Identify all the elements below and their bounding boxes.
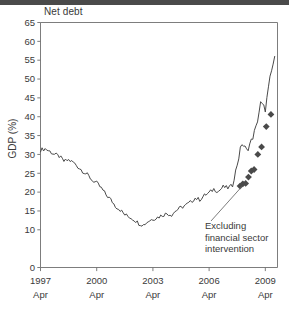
- y-tick-label: 0: [30, 262, 35, 273]
- x-tick-label-month: Apr: [89, 289, 104, 300]
- y-axis-ticks: 0101520253035404550556065: [24, 17, 40, 273]
- y-tick-label: 65: [24, 17, 35, 28]
- y-tick-label: 35: [24, 130, 35, 141]
- y-tick-label: 55: [24, 54, 35, 65]
- y-tick-label: 60: [24, 36, 35, 47]
- data-point-marker: [268, 111, 275, 118]
- x-tick-label-month: Apr: [33, 289, 48, 300]
- x-tick-label-month: Apr: [258, 289, 273, 300]
- data-point-marker: [258, 143, 265, 150]
- x-axis-ticks: 1997Apr2000Apr2003Apr2006Apr2009Apr: [30, 268, 276, 300]
- net-debt-line-series: [41, 56, 275, 226]
- x-tick-label-year: 2009: [255, 275, 276, 286]
- y-tick-label: 50: [24, 73, 35, 84]
- chart-plot-area: 0101520253035404550556065 1997Apr2000Apr…: [0, 0, 289, 309]
- excluding-intervention-marker-series: [237, 111, 275, 189]
- x-tick-label-year: 1997: [30, 275, 51, 286]
- annotation-line: financial sector: [205, 232, 268, 243]
- y-tick-label: 40: [24, 111, 35, 122]
- x-tick-label-year: 2006: [199, 275, 220, 286]
- y-tick-label: 25: [24, 168, 35, 179]
- y-tick-label: 45: [24, 92, 35, 103]
- annotation-layer: Excludingfinancial sectorintervention: [205, 187, 268, 255]
- y-tick-label: 10: [24, 224, 35, 235]
- x-tick-label-year: 2000: [86, 275, 107, 286]
- annotation-line: intervention: [205, 243, 254, 254]
- data-point-marker: [254, 151, 261, 158]
- net-debt-chart-figure: Net debt GDP (%) 01015202530354045505560…: [0, 0, 289, 309]
- x-tick-label-year: 2003: [142, 275, 163, 286]
- data-point-marker: [245, 174, 252, 181]
- annotation-line: Excluding: [205, 220, 246, 231]
- x-tick-label-month: Apr: [202, 289, 217, 300]
- y-tick-label: 15: [24, 205, 35, 216]
- y-tick-label: 30: [24, 149, 35, 160]
- x-tick-label-month: Apr: [146, 289, 161, 300]
- y-tick-label: 20: [24, 186, 35, 197]
- data-point-marker: [263, 123, 270, 130]
